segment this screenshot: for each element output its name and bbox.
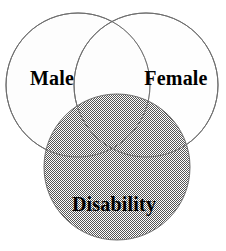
venn-diagram-figure: Male Female Disability xyxy=(0,0,226,251)
venn-diagram-canvas xyxy=(0,0,226,251)
circle-disability xyxy=(44,94,190,240)
